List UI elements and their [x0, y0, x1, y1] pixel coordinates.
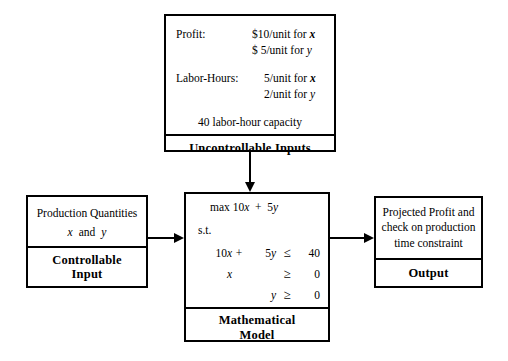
profit-value-y: $ 5/unit for y — [252, 43, 324, 59]
controllable-input-footer-line1: Controllable — [52, 253, 122, 267]
mathematical-model-footer-text: MathematicalModel — [219, 313, 296, 342]
output-line-1: Projected Profit and — [383, 206, 475, 218]
controllable-input-box: Production Quantities xandy Controllable… — [26, 195, 148, 288]
profit-variable-x: x — [310, 28, 316, 40]
constraint-lhs2: y — [246, 289, 276, 301]
mathematical-model-footer-line2: Model — [239, 328, 274, 342]
mathematical-model-footer-line1: Mathematical — [219, 313, 296, 327]
mathematical-model-footer: MathematicalModel — [186, 307, 328, 346]
connector-model-to-output — [330, 237, 366, 239]
constraint-relation: ≥ — [276, 266, 298, 282]
labor-hours-value-x: 5/unit for x — [264, 71, 324, 87]
variable-x: x — [68, 226, 73, 238]
constraint-operator: + — [232, 247, 246, 259]
labor-variable-y: y — [310, 88, 315, 100]
output-line-3: time constraint — [394, 237, 463, 249]
constraint-relation: ≤ — [276, 245, 298, 261]
labor-hours-label: Labor-Hours: — [176, 71, 250, 87]
output-description: Projected Profit and check on production… — [382, 205, 476, 251]
connector-controllable-input-to-model — [148, 237, 176, 239]
subject-to-label: s.t. — [196, 224, 320, 236]
production-quantities-label: Production Quantities — [37, 207, 138, 219]
constraint-row: 10x + 5y ≤ 40 — [196, 245, 320, 261]
capacity-line: 40 labor-hour capacity — [176, 116, 324, 128]
controllable-input-footer-line2: Input — [72, 267, 103, 281]
constraint-relation: ≥ — [276, 287, 298, 303]
constraint-row: x ≥ 0 — [196, 266, 320, 282]
mathematical-model-body: max 10x + 5y s.t. 10x + 5y ≤ 40 x ≥ 0 — [186, 194, 328, 307]
output-body: Projected Profit and check on production… — [376, 198, 481, 258]
constraint-lhs1: x — [196, 268, 232, 280]
variable-y: y — [101, 226, 106, 238]
diagram-canvas: Profit: $10/unit for x $ 5/unit for y La… — [0, 0, 508, 361]
labor-variable-x: x — [310, 72, 316, 84]
output-line-2: check on production — [382, 221, 476, 233]
profit-row: Profit: $10/unit for x $ 5/unit for y — [176, 27, 324, 58]
profit-variable-y: y — [307, 44, 312, 56]
constraint-lhs1: 10x — [196, 247, 232, 259]
constraint-rhs: 0 — [298, 268, 320, 280]
profit-value-x: $10/unit for x — [252, 27, 324, 43]
objective-function: max 10x + 5y — [196, 201, 320, 213]
constraint-row: y ≥ 0 — [196, 287, 320, 303]
mathematical-model-box: max 10x + 5y s.t. 10x + 5y ≤ 40 x ≥ 0 — [184, 192, 330, 342]
arrowhead-down-icon — [245, 182, 255, 192]
labor-hours-row: Labor-Hours: 5/unit for x 2/unit for y — [176, 71, 324, 102]
controllable-input-footer: ControllableInput — [28, 246, 146, 286]
arrowhead-right-icon — [364, 233, 374, 243]
controllable-input-footer-text: ControllableInput — [52, 253, 122, 282]
connector-uncontrollable-inputs-to-model — [249, 152, 251, 184]
constraint-rhs: 40 — [298, 247, 320, 259]
profit-label: Profit: — [176, 27, 250, 43]
production-quantities-variables: xandy — [68, 226, 107, 238]
uncontrollable-inputs-box: Profit: $10/unit for x $ 5/unit for y La… — [164, 14, 336, 152]
labor-hours-values: 5/unit for x 2/unit for y — [250, 71, 324, 102]
labor-hours-value-y: 2/unit for y — [264, 87, 324, 103]
output-box: Projected Profit and check on production… — [374, 196, 483, 288]
constraints-list: 10x + 5y ≤ 40 x ≥ 0 y ≥ — [196, 245, 320, 303]
output-footer: Output — [376, 258, 481, 286]
arrowhead-right-icon — [174, 233, 184, 243]
controllable-input-body: Production Quantities xandy — [28, 197, 146, 246]
and-connector: and — [79, 226, 96, 238]
profit-values: $10/unit for x $ 5/unit for y — [250, 27, 324, 58]
constraint-lhs2: 5y — [246, 247, 276, 259]
uncontrollable-inputs-body: Profit: $10/unit for x $ 5/unit for y La… — [166, 16, 334, 134]
constraint-rhs: 0 — [298, 289, 320, 301]
